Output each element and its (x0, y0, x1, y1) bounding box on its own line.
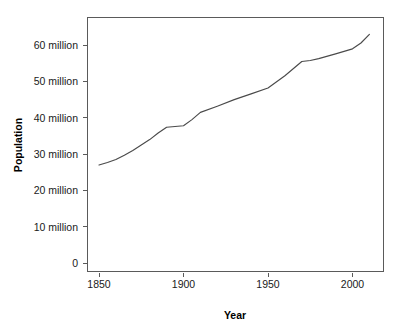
x-tick-label: 2000 (341, 278, 365, 290)
x-axis-title: Year (224, 309, 246, 321)
y-tick-label: 40 million (34, 112, 79, 124)
y-tick-label: 0 (72, 257, 78, 269)
y-tick-label: 50 million (34, 75, 79, 87)
x-tick-label: 1850 (87, 278, 111, 290)
population-line-chart: 010 million20 million30 million40 millio… (0, 0, 403, 328)
y-tick-label: 60 million (34, 39, 79, 51)
y-axis-title: Population (12, 118, 24, 172)
x-tick-label: 1950 (256, 278, 280, 290)
y-tick-label: 10 million (34, 221, 79, 233)
y-tick-label: 30 million (34, 148, 79, 160)
chart-canvas: 010 million20 million30 million40 millio… (0, 0, 403, 328)
x-tick-label: 1900 (172, 278, 196, 290)
y-tick-label: 20 million (34, 184, 79, 196)
